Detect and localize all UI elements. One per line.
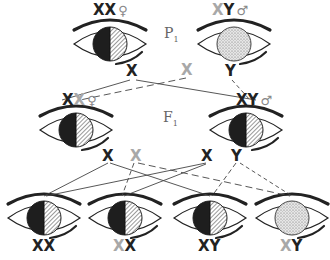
f1-male-gamete-x: X [201,149,213,164]
p1-female-genotype: XX♀ [93,3,128,18]
female-symbol-icon: ♀ [87,93,97,108]
f1-male-eye [210,106,282,150]
generation-label-p1: P1 [164,26,179,44]
female-symbol-icon: ♀ [118,3,128,18]
f1-female-genotype: XX♀ [62,93,97,108]
f2-genotype-3: XY [198,239,220,254]
p1-male-gamete-x: X [181,63,193,78]
f2-eye-4 [256,194,328,238]
p1-male-eye [198,20,270,64]
f1-female-gamete-x-gray: X [130,149,142,164]
p1-female-gamete-x: X [126,64,138,79]
f2-eye-2 [89,194,161,238]
f2-genotype-4: XY [280,239,302,254]
f2-eye-1 [8,194,80,238]
p1-male-genotype: XY♂ [212,3,248,18]
f1-female-eye [40,106,112,150]
f2-genotype-1: XX [32,239,55,254]
f2-eye-3 [174,194,246,238]
f1-male-genotype: XY♂ [236,93,272,108]
male-symbol-icon: ♂ [260,93,272,108]
f1-female-gamete-x: X [102,149,114,164]
p1-male-gamete-y: Y [225,64,236,79]
f1-to-f2-lines [44,163,292,196]
generation-label-f1: F1 [163,110,178,128]
f2-genotype-2: XX [113,239,136,254]
f1-male-gamete-y: Y [231,149,242,164]
p1-female-eye [74,20,146,64]
male-symbol-icon: ♂ [236,3,248,18]
sex-linked-inheritance-diagram: P1 F1 XX♀ XY♂ X X Y XX♀ XY♂ X X X Y XX X… [0,0,330,260]
